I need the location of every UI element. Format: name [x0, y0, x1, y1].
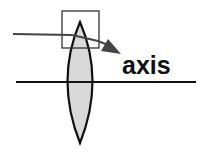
ray-arrowhead-icon	[101, 39, 121, 54]
lens-diagram: axis	[0, 0, 203, 153]
axis-label: axis	[122, 51, 171, 79]
refracted-ray	[13, 34, 108, 45]
